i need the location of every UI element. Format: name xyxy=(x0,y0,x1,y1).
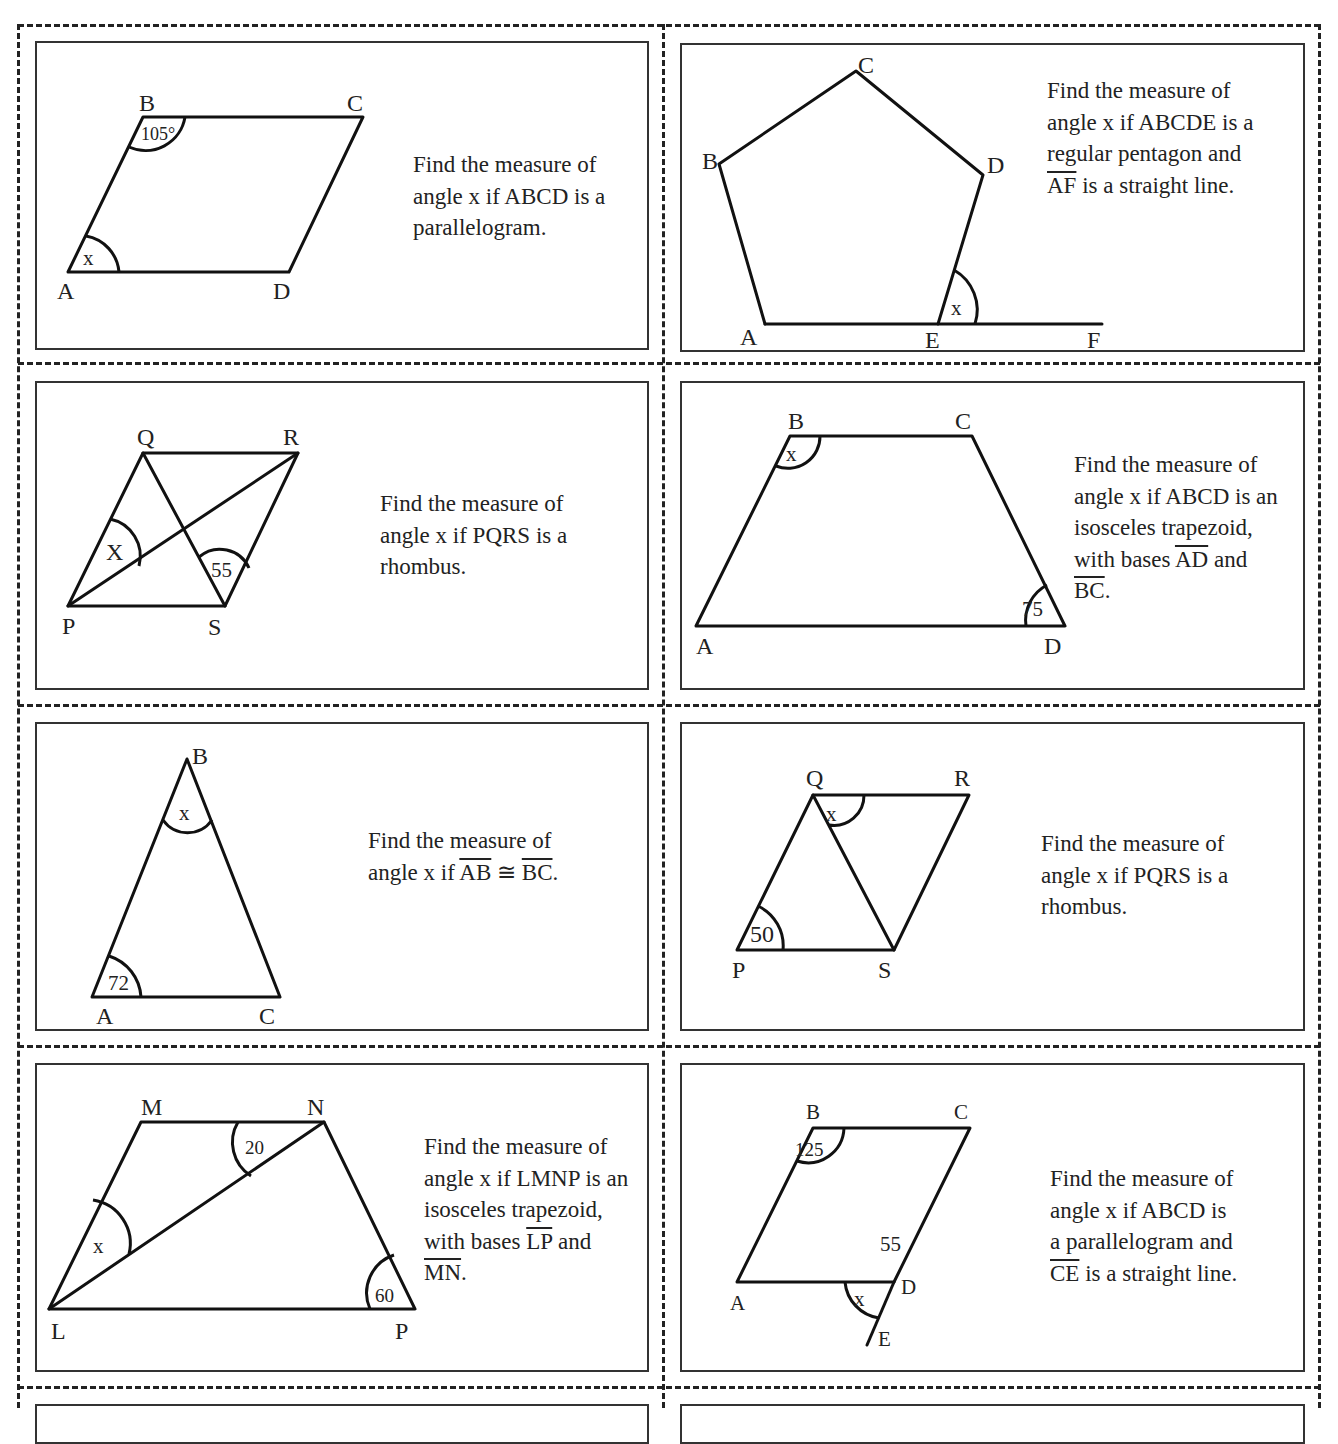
angle-label-x: X xyxy=(106,539,123,565)
segment-mn: MN xyxy=(424,1260,461,1285)
cut-line-center xyxy=(662,24,665,1408)
prompt-line: Find the measure of xyxy=(413,149,605,181)
problem-card-2: A B C D E F x Find the measure of angle … xyxy=(680,43,1305,352)
segment-ce: CE xyxy=(1050,1261,1079,1286)
problem-prompt: Find the measure of angle x if AB ≅ BC. xyxy=(368,825,558,888)
prompt-text: . xyxy=(552,860,558,885)
cut-line-row-4 xyxy=(18,1386,1320,1389)
cut-line-left xyxy=(17,24,20,1408)
vertex-label-d: D xyxy=(901,1275,916,1299)
angle-label-x: x xyxy=(83,246,94,270)
problem-prompt: Find the measure of angle x if PQRS is a… xyxy=(1041,828,1228,923)
prompt-line: angle x if AB ≅ BC. xyxy=(368,857,558,889)
prompt-text: is a straight line. xyxy=(1079,1261,1237,1286)
angle-label-given: 75 xyxy=(1022,597,1043,621)
prompt-line: angle x if PQRS is a xyxy=(380,520,567,552)
vertex-label-a: A xyxy=(96,1003,114,1029)
problem-card-4: A B C D x 75 Find the measure of angle x… xyxy=(680,381,1305,690)
prompt-text: . xyxy=(1105,578,1111,603)
prompt-line: Find the measure of xyxy=(1050,1163,1237,1195)
angle-label-given: 50 xyxy=(750,921,774,947)
vertex-label-b: B xyxy=(139,90,155,116)
prompt-line: Find the measure of xyxy=(368,825,558,857)
prompt-line: parallelogram. xyxy=(413,212,605,244)
prompt-text: angle x if xyxy=(368,860,459,885)
vertex-label-s: S xyxy=(208,614,221,640)
problem-prompt: Find the measure of angle x if LMNP is a… xyxy=(424,1131,628,1289)
problem-prompt: Find the measure of angle x if ABCD is a… xyxy=(413,149,605,244)
problem-card-7: L M N P x 20 60 Find the measure of angl… xyxy=(35,1063,649,1372)
prompt-line: BC. xyxy=(1074,575,1278,607)
segment-bc: BC xyxy=(522,860,553,885)
prompt-line: angle x if PQRS is a xyxy=(1041,860,1228,892)
vertex-label-p: P xyxy=(62,613,75,639)
vertex-label-q: Q xyxy=(137,424,154,450)
prompt-line: Find the measure of xyxy=(424,1131,628,1163)
problem-card-6: P Q R S x 50 Find the measure of angle x… xyxy=(680,722,1305,1031)
vertex-label-p: P xyxy=(395,1318,408,1344)
vertex-label-b: B xyxy=(702,148,718,174)
prompt-line: a parallelogram and xyxy=(1050,1226,1237,1258)
triangle-figure: A B C x 72 xyxy=(37,724,651,1033)
angle-label-given: 55 xyxy=(211,558,232,582)
angle-label-x: x xyxy=(93,1234,104,1258)
prompt-line: isosceles trapezoid, xyxy=(424,1194,628,1226)
congruent-symbol: ≅ xyxy=(491,860,522,885)
vertex-label-b: B xyxy=(788,408,804,434)
vertex-label-m: M xyxy=(141,1094,162,1120)
vertex-label-e: E xyxy=(925,327,940,353)
segment-af: AF xyxy=(1047,173,1076,198)
cut-line-row-2 xyxy=(18,704,1320,707)
prompt-text: with bases xyxy=(1074,547,1175,572)
vertex-label-c: C xyxy=(347,90,363,116)
prompt-line: Find the measure of xyxy=(1041,828,1228,860)
cut-line-row-3 xyxy=(18,1045,1320,1048)
vertex-label-r: R xyxy=(283,424,299,450)
vertex-label-c: C xyxy=(858,52,874,78)
prompt-line: Find the measure of xyxy=(1047,75,1253,107)
problem-prompt: Find the measure of angle x if ABCD is a… xyxy=(1074,449,1278,607)
vertex-label-r: R xyxy=(954,765,970,791)
vertex-label-a: A xyxy=(696,633,714,659)
vertex-label-l: L xyxy=(51,1318,66,1344)
prompt-line: rhombus. xyxy=(1041,891,1228,923)
angle-label-x: x xyxy=(951,296,962,320)
angle-label-given-d: 55 xyxy=(880,1232,901,1256)
prompt-line: regular pentagon and xyxy=(1047,138,1253,170)
prompt-line: rhombus. xyxy=(380,551,567,583)
vertex-label-b: B xyxy=(806,1100,820,1124)
problem-card-9-partial xyxy=(35,1404,649,1444)
problem-card-10-partial xyxy=(680,1404,1305,1444)
prompt-line: with bases LP and xyxy=(424,1226,628,1258)
vertex-label-d: D xyxy=(987,152,1004,178)
angle-label-given-b: 125 xyxy=(795,1139,824,1160)
prompt-text: with bases xyxy=(424,1229,526,1254)
vertex-label-a: A xyxy=(730,1291,746,1315)
angle-label-x: x xyxy=(786,442,797,466)
problem-prompt: Find the measure of angle x if ABCDE is … xyxy=(1047,75,1253,201)
prompt-line: AF is a straight line. xyxy=(1047,170,1253,202)
prompt-line: MN. xyxy=(424,1257,628,1289)
vertex-label-b: B xyxy=(192,743,208,769)
angle-label-given-bottom: 60 xyxy=(375,1285,394,1306)
cut-line-top xyxy=(18,24,1320,27)
prompt-line: angle x if ABCD is an xyxy=(1074,481,1278,513)
angle-label-x: x xyxy=(179,801,190,825)
problem-card-3: P Q R S X 55 Find the measure of angle x… xyxy=(35,381,649,690)
prompt-line: Find the measure of xyxy=(380,488,567,520)
vertex-label-d: D xyxy=(273,278,290,304)
problem-card-5: A B C x 72 Find the measure of angle x i… xyxy=(35,722,649,1031)
vertex-label-c: C xyxy=(955,408,971,434)
vertex-label-s: S xyxy=(878,957,891,983)
prompt-line: Find the measure of xyxy=(1074,449,1278,481)
angle-label-given: 105° xyxy=(141,124,175,144)
prompt-line: isosceles trapezoid, xyxy=(1074,512,1278,544)
prompt-line: angle x if LMNP is an xyxy=(424,1163,628,1195)
segment-ab: AB xyxy=(459,860,491,885)
segment-ad: AD xyxy=(1175,547,1208,572)
vertex-label-c: C xyxy=(954,1100,968,1124)
prompt-line: angle x if ABCDE is a xyxy=(1047,107,1253,139)
prompt-line: angle x if ABCD is a xyxy=(413,181,605,213)
problem-prompt: Find the measure of angle x if PQRS is a… xyxy=(380,488,567,583)
